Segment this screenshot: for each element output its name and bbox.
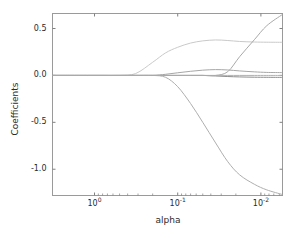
y-tick-label: -1.0 xyxy=(7,164,47,173)
x-tick-label: 10-1 xyxy=(158,199,198,208)
series-line-coef-5-negative xyxy=(53,75,283,194)
x-tick-marks xyxy=(95,14,280,196)
data-series-group xyxy=(53,14,283,194)
x-tick-label: 10-2 xyxy=(241,199,281,208)
axes-frame xyxy=(53,14,283,196)
x-axis-label: alpha xyxy=(52,215,284,225)
x-tick-label: 100 xyxy=(75,199,115,208)
y-tick-label: 0.5 xyxy=(7,24,47,33)
y-tick-label: 0.0 xyxy=(7,70,47,79)
series-line-coef-6-positive xyxy=(53,14,283,75)
y-tick-marks xyxy=(53,29,283,170)
plot-frame xyxy=(53,14,283,196)
chart-figure: Coefficients alpha 0.50.0-0.5-1.0 10010-… xyxy=(0,0,296,240)
y-tick-label: -0.5 xyxy=(7,117,47,126)
series-line-coef-2 xyxy=(53,70,283,76)
series-line-coef-1 xyxy=(53,40,283,76)
